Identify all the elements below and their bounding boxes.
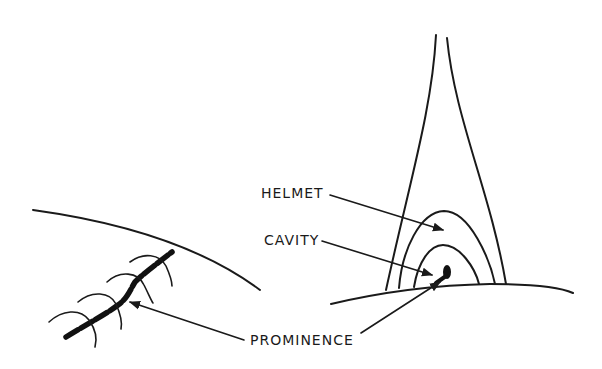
right-limb-view bbox=[331, 35, 573, 304]
solar-limb-right bbox=[331, 284, 573, 304]
cavity-arrow bbox=[322, 241, 432, 275]
solar-prominence-diagram: HELMET CAVITY PROMINENCE bbox=[0, 0, 602, 369]
prominence-arrow-right bbox=[361, 282, 440, 333]
labels: HELMET CAVITY PROMINENCE bbox=[130, 185, 443, 348]
helmet-label: HELMET bbox=[261, 185, 324, 201]
prominence-filament bbox=[66, 252, 172, 337]
prominence-label: PROMINENCE bbox=[250, 332, 354, 348]
prominence-arrow-left bbox=[130, 302, 244, 340]
prominence-base bbox=[436, 276, 446, 283]
left-limb-view bbox=[33, 210, 260, 347]
streamer-right-edge bbox=[447, 38, 506, 284]
helmet-arrow bbox=[330, 195, 443, 230]
arcade-loop-1 bbox=[49, 312, 96, 347]
solar-limb-left bbox=[33, 210, 260, 290]
cavity-label: CAVITY bbox=[264, 232, 319, 248]
